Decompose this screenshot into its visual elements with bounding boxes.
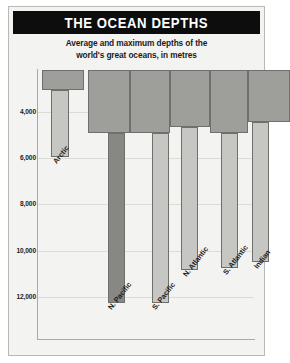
average-depth-bar[interactable] (42, 70, 84, 90)
y-axis-tick-label: 4,000 (2, 108, 36, 115)
subtitle-line-2: world's great oceans, in metres (13, 50, 260, 62)
bar-group[interactable] (248, 70, 273, 318)
plot-area: ArcticN. PacificS. PacificN. AtlanticS. … (38, 70, 254, 318)
bar-group[interactable] (210, 70, 248, 318)
bar-group[interactable] (170, 70, 210, 318)
maximum-depth-bar[interactable] (181, 127, 198, 270)
average-depth-bar[interactable] (88, 70, 130, 133)
chart-title-bar: THE OCEAN DEPTHS (13, 11, 260, 34)
y-axis: 4,0006,0008,00010,00012,000 (0, 70, 36, 318)
maximum-depth-bar[interactable] (108, 133, 125, 303)
bar-group[interactable] (88, 70, 130, 318)
y-axis-tick-label: 12,000 (2, 293, 36, 300)
maximum-depth-bar[interactable] (152, 133, 169, 303)
bar-group[interactable] (42, 70, 84, 318)
maximum-depth-bar[interactable] (221, 133, 238, 268)
page-title: THE OCEAN DEPTHS (65, 16, 209, 30)
y-axis-tick-label: 10,000 (2, 247, 36, 254)
average-depth-bar[interactable] (170, 70, 210, 127)
subtitle-line-1: Average and maximum depths of the (13, 38, 260, 50)
average-depth-bar[interactable] (248, 70, 273, 122)
y-axis-tick-label: 8,000 (2, 200, 36, 207)
bar-group[interactable] (130, 70, 170, 318)
y-axis-tick-label: 6,000 (2, 154, 36, 161)
average-depth-bar[interactable] (130, 70, 170, 133)
average-depth-bar[interactable] (210, 70, 248, 133)
chart-subtitle: Average and maximum depths of the world'… (13, 38, 260, 61)
maximum-depth-bar[interactable] (252, 122, 269, 262)
ocean-depths-infographic: THE OCEAN DEPTHS Average and maximum dep… (0, 0, 273, 363)
